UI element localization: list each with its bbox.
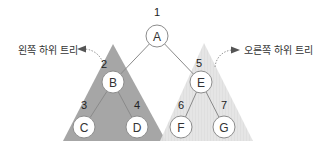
- visit-order-label: 5: [196, 57, 202, 69]
- node-label: D: [133, 121, 142, 135]
- visit-order-label: 3: [81, 99, 87, 111]
- visit-order-label: 7: [221, 99, 227, 111]
- node-label: E: [197, 76, 205, 90]
- visit-order-label: 4: [134, 99, 140, 111]
- visit-order-label: 1: [154, 6, 160, 18]
- visit-order-label: 2: [101, 58, 107, 70]
- edge-a-e: [165, 44, 194, 74]
- node-label: C: [80, 121, 89, 135]
- node-label: G: [219, 121, 228, 135]
- tree-node-a: A1: [146, 6, 168, 47]
- node-label: A: [153, 30, 161, 44]
- node-label: F: [177, 121, 184, 135]
- tree-diagram: 왼쪽 하위 트리 오른쪽 하위 트리 A1B2C3D4E5F6G7: [0, 0, 326, 150]
- right-subtree-caption: 오른쪽 하위 트리: [244, 44, 313, 56]
- visit-order-label: 6: [178, 99, 184, 111]
- node-label: B: [109, 76, 117, 90]
- right-subtree-pointer: [215, 50, 232, 67]
- right-arrowhead-icon: [231, 47, 240, 54]
- edge-a-b: [121, 44, 150, 74]
- left-subtree-caption: 왼쪽 하위 트리: [18, 44, 78, 56]
